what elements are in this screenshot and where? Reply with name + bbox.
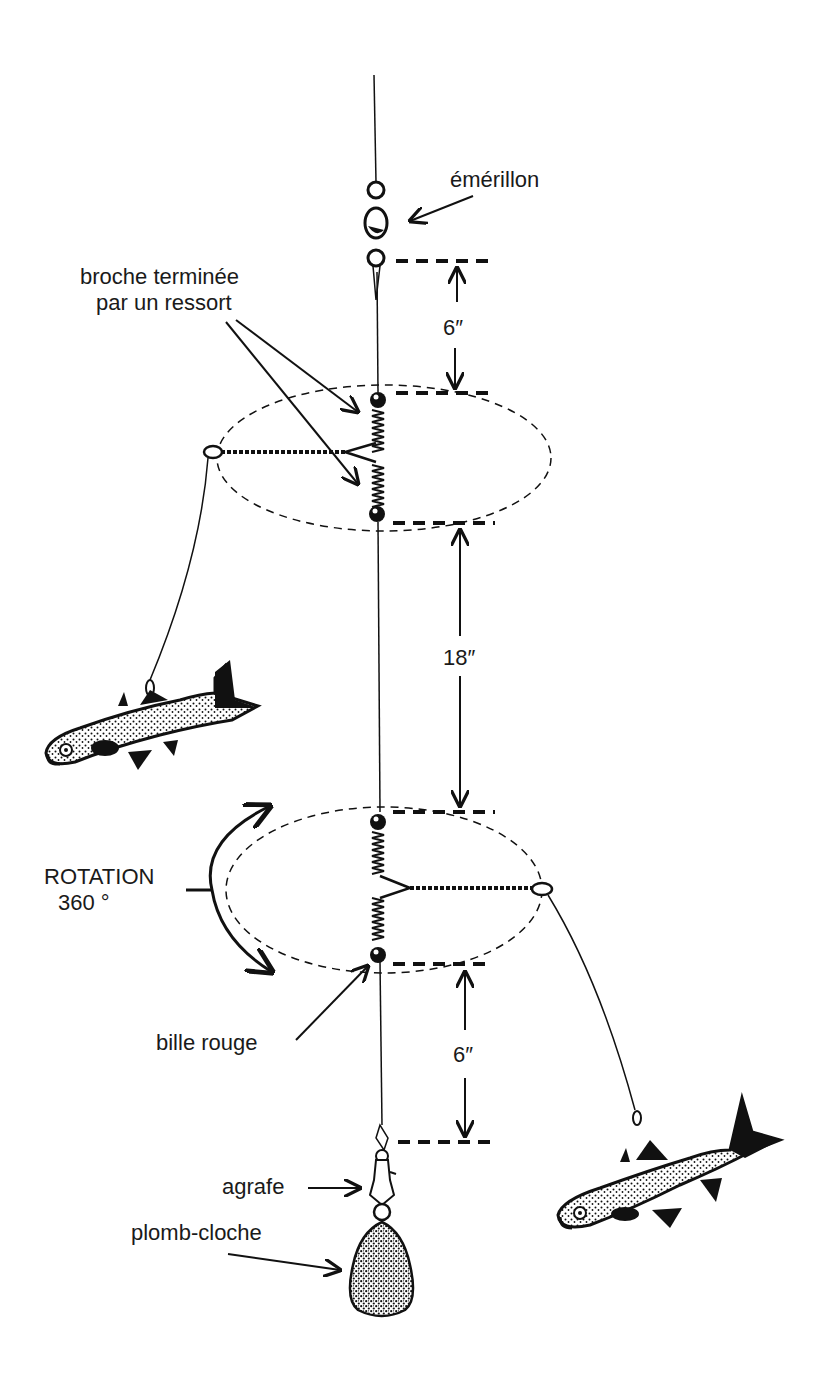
spring-arrow-lower (226, 322, 358, 484)
spring-arrow-upper (236, 320, 358, 412)
rotation-arrow-icon (186, 806, 272, 972)
top-dimension: 6″ (396, 261, 490, 393)
rotation-label-line2: 360 ° (58, 890, 110, 915)
swivel-arrow (410, 196, 473, 221)
snap-icon (370, 1125, 396, 1220)
swivel-icon (365, 182, 387, 300)
upper-rotation-path (217, 385, 551, 531)
snap-label: agrafe (222, 1174, 284, 1199)
fishing-rig-diagram: émérillon 6″ broche terminée par un ress… (0, 0, 832, 1377)
upper-spring-arm (204, 392, 386, 522)
spring-wire-label-line1: broche terminée (80, 264, 239, 289)
bell-sinker-icon (350, 1222, 413, 1316)
bottom-dimension: 6″ (393, 964, 498, 1142)
top-gap-label: 6″ (443, 315, 463, 340)
middle-dimension: 18″ (393, 523, 495, 812)
red-bead-arrow (296, 966, 368, 1040)
bell-sinker-label: plomb-cloche (131, 1220, 262, 1245)
red-bead-label: bille rouge (156, 1030, 258, 1055)
lower-leader (548, 895, 641, 1125)
spring-wire-label-line2: par un ressort (96, 290, 232, 315)
swivel-label: émérillon (450, 167, 539, 192)
bottom-gap-label: 6″ (453, 1042, 473, 1067)
bell-sinker-arrow (228, 1254, 340, 1270)
lower-bait-fish (558, 1098, 780, 1228)
lower-spring-arm (370, 814, 552, 963)
middle-gap-label: 18″ (443, 645, 475, 670)
rotation-label-line1: ROTATION (44, 864, 154, 889)
upper-leader (146, 458, 208, 696)
